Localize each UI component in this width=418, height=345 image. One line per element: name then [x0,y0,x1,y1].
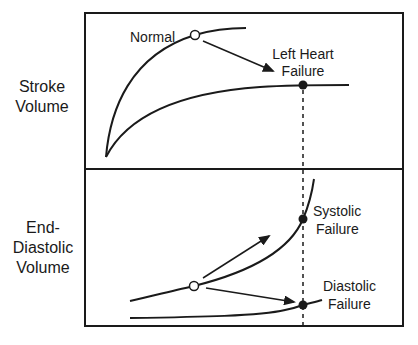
heart-failure-diagram: Stroke Volume End- Diastolic Volume Norm… [0,0,418,345]
failure-curve [106,85,349,157]
label-left-heart-failure-line1: Left Heart [272,46,334,62]
y-label-edv-line2: Diastolic [13,239,73,256]
y-label-stroke-volume-line1: Stroke [19,78,65,95]
label-diastolic-failure-line2: Failure [328,296,371,312]
label-systolic-failure-line2: Failure [316,221,359,237]
label-diastolic-failure-line1: Diastolic [323,278,376,294]
edv-normal-point-open [190,282,199,291]
normal-point-open [191,31,200,40]
label-normal: Normal [130,29,175,45]
failure-point-filled [299,81,308,90]
y-label-edv-line3: Volume [16,259,69,276]
y-label-edv-line1: End- [26,219,60,236]
left-heart-failure-arrow [203,41,273,71]
systolic-point-filled [299,215,308,224]
edv-diastolic-curve [130,300,322,318]
normal-curve [106,28,246,157]
edv-systolic-curve [130,179,314,301]
systolic-arrow [203,236,269,278]
label-systolic-failure-line1: Systolic [313,203,361,219]
label-left-heart-failure-line2: Failure [282,63,325,79]
diastolic-point-filled [299,301,308,310]
y-label-stroke-volume-line2: Volume [15,98,68,115]
diastolic-arrow [206,288,294,302]
